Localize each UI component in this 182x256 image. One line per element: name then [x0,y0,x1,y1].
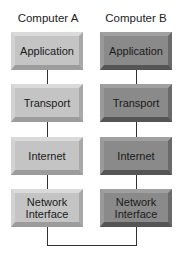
a-network-interface-layer: Network Interface [11,189,83,227]
network-link-b [136,227,137,245]
b-connector-3 [136,175,137,189]
a-connector-3 [47,175,48,189]
b-internet-layer: Internet [100,137,172,175]
b-network-interface-layer: Network Interface [100,189,172,227]
network-link [47,245,137,246]
a-connector-1 [47,70,48,84]
b-transport-layer: Transport [100,84,172,122]
a-application-layer: Application [11,32,83,70]
b-connector-1 [136,70,137,84]
a-transport-layer: Transport [11,84,83,122]
a-connector-2 [47,122,48,137]
a-internet-layer: Internet [11,137,83,175]
b-application-layer: Application [100,32,172,70]
computer-a-title: Computer A [8,12,88,24]
computer-b-title: Computer B [96,12,176,24]
b-connector-2 [136,122,137,137]
network-link-a [47,227,48,245]
